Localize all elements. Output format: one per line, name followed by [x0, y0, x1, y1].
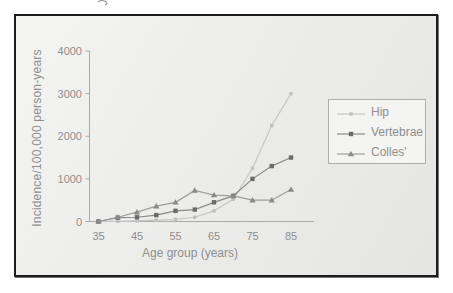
x-axis-title: Age group (years) — [142, 246, 238, 260]
legend: Hip Vertebrae Colles' — [328, 99, 426, 164]
legend-entry-hip: Hip — [336, 102, 425, 122]
legend-label: Hip — [371, 105, 389, 119]
chart-panel: 01000200030004000354555657585 Incidence/… — [14, 14, 438, 277]
legend-entry-colles: Colles' — [336, 142, 425, 162]
svg-text:55: 55 — [169, 230, 181, 242]
svg-text:4000: 4000 — [58, 45, 82, 57]
y-axis-title: Incidence/100,000 person-years — [30, 49, 44, 226]
svg-text:85: 85 — [285, 230, 297, 242]
svg-text:35: 35 — [92, 230, 104, 242]
svg-text:65: 65 — [208, 230, 220, 242]
svg-text:3000: 3000 — [58, 88, 82, 100]
legend-entry-vertebrae: Vertebrae — [336, 122, 425, 142]
figure-page: 01000200030004000354555657585 Incidence/… — [0, 0, 453, 293]
svg-text:75: 75 — [246, 230, 258, 242]
scan-artifact — [96, 0, 112, 7]
svg-text:2000: 2000 — [58, 130, 82, 142]
svg-text:1000: 1000 — [58, 173, 82, 185]
legend-label: Vertebrae — [371, 125, 423, 139]
legend-marker-vertebrae — [336, 126, 366, 138]
legend-marker-hip — [336, 106, 366, 118]
legend-label: Colles' — [371, 145, 407, 159]
svg-text:0: 0 — [76, 216, 82, 228]
legend-marker-colles — [336, 146, 366, 158]
svg-text:45: 45 — [131, 230, 143, 242]
